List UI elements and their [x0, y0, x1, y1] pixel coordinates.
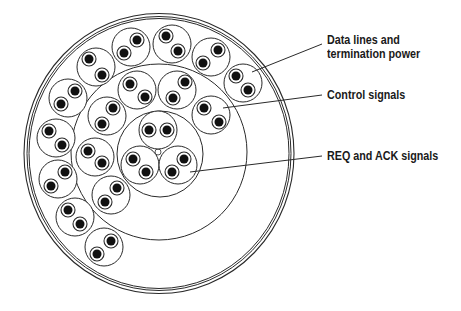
wire-conductor	[120, 49, 129, 58]
twisted-pair	[139, 111, 177, 149]
leader-line	[190, 156, 322, 172]
wire-conductor	[142, 168, 151, 177]
twisted-pair	[192, 96, 230, 134]
twisted-pair	[88, 97, 126, 135]
wire-conductor	[45, 127, 54, 136]
wire-conductor	[101, 198, 110, 207]
pair-sheath	[56, 198, 94, 236]
wire-conductor	[107, 237, 116, 246]
pair-sheath	[77, 48, 115, 86]
wire-conductor	[129, 155, 138, 164]
pair-sheath	[121, 146, 159, 184]
wire-conductor	[109, 104, 118, 113]
wire-conductor	[200, 104, 209, 113]
pair-sheath	[92, 176, 130, 214]
label-control-signals-text: Control signals	[327, 88, 405, 102]
wire-conductor	[199, 59, 208, 68]
wire-conductor	[61, 168, 70, 177]
wire-conductor	[181, 78, 190, 87]
twisted-pair	[159, 146, 197, 184]
pair-group-inner	[121, 111, 197, 184]
leader-line	[252, 44, 322, 72]
pair-sheath	[85, 228, 123, 266]
twisted-pair	[39, 160, 77, 198]
pair-sheath	[76, 138, 114, 176]
twisted-pair	[76, 138, 114, 176]
pair-sheath	[49, 79, 87, 117]
pair-sheath	[224, 64, 262, 102]
twisted-pair	[153, 25, 191, 63]
twisted-pair	[49, 79, 87, 117]
twisted-pair	[192, 38, 230, 76]
wire-conductor	[163, 126, 172, 135]
twisted-pair	[92, 176, 130, 214]
wire-conductor	[113, 184, 122, 193]
wire-conductor	[180, 155, 189, 164]
wire-conductor	[84, 147, 93, 156]
wire-conductor	[169, 94, 178, 103]
wire-conductor	[98, 159, 107, 168]
wire-conductor	[168, 168, 177, 177]
twisted-pair	[158, 71, 196, 109]
pair-sheath	[192, 96, 230, 134]
wire-conductor	[141, 93, 150, 102]
wire-conductor	[57, 100, 66, 109]
wire-conductor	[98, 120, 107, 129]
wire-conductor	[232, 72, 241, 81]
wire-conductor	[76, 220, 85, 229]
twisted-pair	[85, 228, 123, 266]
wire-conductor	[244, 86, 253, 95]
twisted-pair	[77, 48, 115, 86]
pair-sheath	[192, 38, 230, 76]
pair-sheath	[153, 25, 191, 63]
label-data-lines-line2: termination power	[327, 47, 420, 61]
wire-conductor	[71, 87, 80, 96]
wire-conductor	[174, 47, 183, 56]
label-req-ack-signals: REQ and ACK signals	[327, 149, 438, 163]
label-data-lines-line1: Data lines and	[327, 33, 420, 47]
wire-conductor	[93, 250, 102, 259]
wire-conductor	[215, 118, 224, 127]
wire-conductor	[58, 141, 67, 150]
twisted-pair	[118, 71, 156, 109]
cable-cross-section-diagram: Data lines and termination power Control…	[0, 0, 461, 311]
label-req-ack-signals-text: REQ and ACK signals	[327, 149, 438, 163]
wire-conductor	[85, 55, 94, 64]
wire-conductor	[162, 32, 171, 41]
pair-sheath	[118, 71, 156, 109]
pair-sheath	[159, 146, 197, 184]
twisted-pairs	[37, 25, 262, 266]
wire-conductor	[145, 126, 154, 135]
pair-sheath	[39, 160, 77, 198]
twisted-pair	[121, 146, 159, 184]
wire-conductor	[64, 206, 73, 215]
label-data-lines: Data lines and termination power	[327, 33, 420, 61]
pair-sheath	[112, 28, 150, 66]
wire-conductor	[214, 46, 223, 55]
wire-conductor	[126, 80, 135, 89]
wire-conductor	[98, 71, 107, 80]
wire-conductor	[133, 36, 142, 45]
twisted-pair	[56, 198, 94, 236]
wire-conductor	[47, 182, 56, 191]
label-control-signals: Control signals	[327, 88, 405, 102]
twisted-pair	[112, 28, 150, 66]
pair-sheath	[37, 119, 75, 157]
twisted-pair	[37, 119, 75, 157]
twisted-pair	[224, 64, 262, 102]
